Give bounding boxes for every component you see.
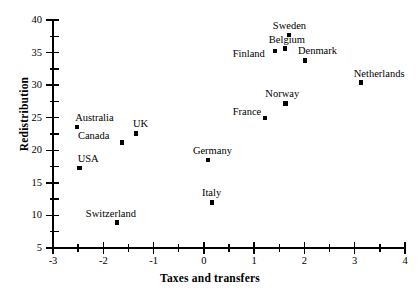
data-point-label: Norway <box>265 89 299 100</box>
data-point-marker <box>283 46 287 50</box>
data-point-marker <box>287 33 291 37</box>
x-axis-tick-label: 2 <box>289 256 319 267</box>
data-point-marker <box>134 131 138 135</box>
data-point-label: Finland <box>233 49 265 60</box>
data-point-label: Denmark <box>298 46 337 57</box>
data-point-marker <box>77 166 81 170</box>
data-point-marker <box>359 80 363 84</box>
x-axis-tick-label: 1 <box>239 256 269 267</box>
data-point-label: Sweden <box>273 21 306 32</box>
y-axis-tick-label: 10 <box>16 210 42 221</box>
data-point-marker <box>206 158 210 162</box>
x-axis-tick-label: -1 <box>139 256 169 267</box>
x-axis-tick-label: 0 <box>189 256 219 267</box>
x-axis-tick-label: 3 <box>340 256 370 267</box>
data-point-marker <box>283 101 287 105</box>
data-point-label: Germany <box>193 146 232 157</box>
data-point-label: Australia <box>75 113 114 124</box>
scatter-chart: 510152025303540-3-2-101234 Taxes and tra… <box>0 0 420 295</box>
x-axis-tick-label: -2 <box>88 256 118 267</box>
data-point-marker <box>210 200 214 204</box>
data-point-marker <box>273 49 277 53</box>
data-point-marker <box>75 125 79 129</box>
data-point-label: UK <box>133 119 148 130</box>
y-axis-tick-label: 40 <box>16 15 42 26</box>
data-point-marker <box>263 116 267 120</box>
x-axis-tick-label: 4 <box>390 256 420 267</box>
data-point-label: Netherlands <box>354 69 405 80</box>
data-point-marker <box>303 58 307 62</box>
data-point-label: France <box>233 107 262 118</box>
data-point-marker <box>120 140 124 144</box>
data-point-label: USA <box>78 154 99 165</box>
y-axis-title: Redistribution <box>18 34 30 194</box>
data-point-label: Canada <box>78 131 110 142</box>
data-point-label: Italy <box>202 188 221 199</box>
data-point-marker <box>115 220 119 224</box>
data-point-label: Switzerland <box>86 209 136 220</box>
x-axis-title: Taxes and transfers <box>0 272 420 284</box>
y-axis-tick-label: 5 <box>16 243 42 254</box>
x-axis-tick-label: -3 <box>38 256 68 267</box>
